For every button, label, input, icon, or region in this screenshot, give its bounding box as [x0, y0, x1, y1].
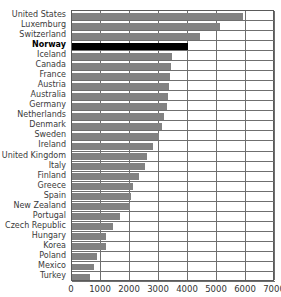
- category-label: Turkey: [0, 271, 66, 281]
- bar-row: [72, 262, 275, 272]
- bar-row: [72, 31, 275, 41]
- bar-rows: [72, 11, 275, 282]
- category-label: Denmark: [0, 120, 66, 130]
- bar-row: [72, 141, 275, 151]
- x-tick-label: 2000: [118, 283, 140, 295]
- bar: [72, 243, 106, 250]
- category-label: Austria: [0, 80, 66, 90]
- bar-row: [72, 232, 275, 242]
- category-label: Korea: [0, 241, 66, 251]
- category-label: Sweden: [0, 130, 66, 140]
- category-label: United States: [0, 10, 66, 20]
- bar: [72, 163, 145, 170]
- x-tick-label: 5000: [205, 283, 227, 295]
- bar: [72, 63, 171, 70]
- bar: [72, 253, 97, 260]
- bar-row: [72, 121, 275, 131]
- bar-row: [72, 61, 275, 71]
- x-tick-label: 1000: [89, 283, 111, 295]
- category-label: Ireland: [0, 140, 66, 150]
- bar: [72, 13, 243, 20]
- bar-chart: United StatesLuxemburgSwitzerlandNorwayI…: [0, 0, 281, 297]
- bar-row: [72, 11, 275, 21]
- bar: [72, 183, 133, 190]
- bar: [72, 274, 90, 281]
- x-tick-label: 7000: [263, 283, 281, 295]
- bar: [72, 193, 131, 200]
- category-label: New Zealand: [0, 201, 66, 211]
- bar-row: [72, 71, 275, 81]
- bar: [72, 53, 172, 60]
- category-label: France: [0, 70, 66, 80]
- bar: [72, 23, 220, 30]
- category-label: United Kingdom: [0, 151, 66, 161]
- category-label: Italy: [0, 161, 66, 171]
- bar-row: [72, 252, 275, 262]
- bar-row: [72, 162, 275, 172]
- x-tick-label: 0: [68, 283, 73, 295]
- bar: [72, 133, 159, 140]
- bar-row: [72, 272, 275, 282]
- category-label: Portugal: [0, 211, 66, 221]
- category-label: Australia: [0, 90, 66, 100]
- bar-row: [72, 172, 275, 182]
- bar: [72, 33, 200, 40]
- bar-row: [72, 202, 275, 212]
- bar-row: [72, 131, 275, 141]
- bar-row: [72, 21, 275, 31]
- x-tick-label: 4000: [176, 283, 198, 295]
- x-tick-label: 3000: [147, 283, 169, 295]
- category-label: Greece: [0, 181, 66, 191]
- category-label: Finland: [0, 171, 66, 181]
- plot-area: [71, 10, 274, 281]
- bar: [72, 223, 113, 230]
- bar: [72, 113, 164, 120]
- category-label: Poland: [0, 251, 66, 261]
- category-label: Netherlands: [0, 110, 66, 120]
- bar-row: [72, 242, 275, 252]
- bar-row: [72, 111, 275, 121]
- category-label: Hungary: [0, 231, 66, 241]
- bar: [72, 153, 147, 160]
- category-label: Czech Republic: [0, 221, 66, 231]
- bar-row: [72, 91, 275, 101]
- bar-row: [72, 51, 275, 61]
- bar: [72, 143, 153, 150]
- bar: [72, 123, 162, 130]
- x-axis-tick-labels: 01000200030004000500060007000: [0, 283, 281, 295]
- bar: [72, 93, 168, 100]
- category-axis-labels: United StatesLuxemburgSwitzerlandNorwayI…: [0, 10, 69, 281]
- bar: [72, 203, 130, 210]
- bar-row: [72, 182, 275, 192]
- bar-row: [72, 152, 275, 162]
- bar: [72, 103, 167, 110]
- category-label: Luxemburg: [0, 20, 66, 30]
- bar-row: [72, 41, 275, 51]
- bar-row: [72, 101, 275, 111]
- category-label: Mexico: [0, 261, 66, 271]
- bar: [72, 233, 106, 240]
- bar-row: [72, 81, 275, 91]
- category-label: Canada: [0, 60, 66, 70]
- bar-row: [72, 192, 275, 202]
- bar-row: [72, 222, 275, 232]
- bar: [72, 173, 139, 180]
- category-label: Iceland: [0, 50, 66, 60]
- row-separator: [72, 281, 275, 282]
- chart-title: [0, 0, 281, 3]
- category-label: Switzerland: [0, 30, 66, 40]
- category-label: Germany: [0, 100, 66, 110]
- bar: [72, 213, 120, 220]
- bar: [72, 73, 170, 80]
- bar: [72, 83, 169, 90]
- x-tick-label: 6000: [234, 283, 256, 295]
- category-label: Spain: [0, 191, 66, 201]
- bar: [72, 264, 94, 271]
- bar-row: [72, 212, 275, 222]
- bar: [72, 43, 188, 50]
- category-label: Norway: [0, 40, 66, 50]
